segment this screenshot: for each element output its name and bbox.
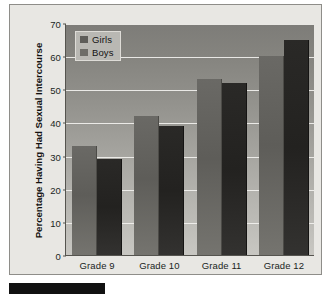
y-axis-tick-label: 10 (50, 217, 61, 228)
y-axis-tick-label: 0 (56, 251, 61, 262)
y-axis-tick-mark (63, 256, 66, 257)
y-axis-tick-mark (63, 156, 66, 157)
y-axis-tick-label: 20 (50, 184, 61, 195)
x-axis-tick-label: Grade 12 (253, 260, 315, 271)
y-axis-tick-mark (63, 57, 66, 58)
x-axis-tick-label: Grade 11 (191, 260, 253, 271)
bar-boys (284, 40, 309, 255)
bar-group (197, 24, 247, 255)
x-axis-tick-label: Grade 10 (128, 260, 190, 271)
boys-swatch-icon (80, 49, 88, 56)
girls-swatch-icon (80, 36, 88, 43)
bar-group (259, 24, 309, 255)
y-axis-tick-label: 40 (50, 118, 61, 129)
bar-girls (259, 56, 284, 255)
y-axis-tick-mark (63, 123, 66, 124)
y-axis-tick-label: 70 (50, 19, 61, 30)
y-axis-tick-mark (63, 24, 66, 25)
y-axis-tick-label: 60 (50, 52, 61, 63)
legend-label-girls: Girls (92, 35, 112, 45)
y-axis-tick-mark (63, 90, 66, 91)
bar-girls (72, 146, 97, 255)
y-axis-title-text: Percentage Having Had Sexual Intercourse (34, 42, 45, 238)
x-axis-tick-label: Grade 9 (66, 260, 128, 271)
bar-group (134, 24, 184, 255)
legend-item-girls: Girls (80, 35, 114, 45)
y-axis-tick-mark (63, 189, 66, 190)
legend-label-boys: Boys (92, 48, 114, 58)
chart-plot-area: Girls Boys 010203040506070Grade 9Grade 1… (65, 24, 314, 256)
legend-item-boys: Boys (80, 48, 114, 58)
bar-boys (222, 83, 247, 255)
y-axis-tick-mark (63, 222, 66, 223)
bar-boys (97, 159, 122, 255)
page-artifact-strip (9, 283, 105, 294)
y-axis-tick-label: 30 (50, 151, 61, 162)
chart-legend: Girls Boys (75, 31, 121, 61)
y-axis-title: Percentage Having Had Sexual Intercourse (32, 24, 46, 256)
y-axis-tick-label: 50 (50, 85, 61, 96)
bar-boys (159, 126, 184, 255)
figure-frame: Percentage Having Had Sexual Intercourse… (9, 4, 322, 275)
figure-page: Percentage Having Had Sexual Intercourse… (0, 0, 330, 300)
bar-girls (134, 116, 159, 255)
bar-girls (197, 79, 222, 255)
